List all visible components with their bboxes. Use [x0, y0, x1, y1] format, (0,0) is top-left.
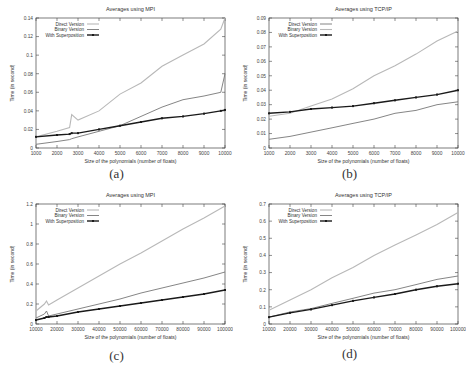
y-tick-label: 0.2	[26, 302, 33, 307]
series-point	[140, 302, 142, 304]
x-tick-label: 90000	[197, 327, 211, 332]
y-tick-label: 1	[30, 222, 33, 227]
series-point	[436, 285, 438, 287]
x-tick-label: 20000	[50, 327, 64, 332]
chart-caption-c: (c)	[0, 348, 233, 364]
x-tick-label: 80000	[176, 327, 190, 332]
x-tick-label: 30000	[71, 327, 85, 332]
series-point	[352, 300, 354, 302]
y-tick-label: 0.2	[259, 288, 266, 293]
x-tick-label: 30000	[304, 327, 318, 332]
y-tick-label: 0.6	[259, 219, 266, 224]
x-tick-label: 100000	[217, 327, 233, 332]
series-point	[268, 112, 270, 114]
y-tick-label: 0.07	[257, 45, 267, 50]
x-tick-label: 3000	[73, 151, 84, 156]
series-point	[457, 283, 459, 285]
series-point	[161, 117, 163, 119]
x-tick-label: 100000	[450, 327, 466, 332]
series-point	[69, 133, 71, 135]
x-tick-label: 10000	[218, 151, 232, 156]
chart-caption-a: (a)	[0, 166, 233, 182]
x-tick-label: 7000	[157, 151, 168, 156]
series-point	[289, 312, 291, 314]
series-point	[436, 94, 438, 96]
x-tick-label: 9000	[199, 151, 210, 156]
chart-caption-b: (b)	[233, 166, 466, 182]
y-axis-label: Time (in second)	[9, 245, 15, 282]
series-point	[373, 296, 375, 298]
legend-label: Direct Version	[288, 22, 317, 27]
y-tick-label: 0.12	[24, 34, 34, 39]
series-point	[161, 299, 163, 301]
x-tick-label: 60000	[367, 327, 381, 332]
series-point	[71, 132, 73, 134]
legend-label: Binary Version	[54, 27, 84, 32]
x-tick-label: 10000	[451, 151, 465, 156]
y-axis-label: Time (in second)	[242, 64, 248, 101]
series-point	[56, 315, 58, 317]
series-point	[48, 316, 50, 318]
series-line	[36, 74, 225, 145]
x-tick-label: 2000	[52, 151, 63, 156]
series-point	[77, 132, 79, 134]
y-tick-label: 0.1	[26, 53, 33, 58]
series-point	[352, 105, 354, 107]
chart-panel-a: Averages using MPI00.020.040.060.080.10.…	[0, 0, 233, 186]
x-tick-label: 8000	[178, 151, 189, 156]
y-tick-label: 0.7	[259, 202, 266, 207]
chart-panel-c: Averages using MPI00.20.40.60.811.210000…	[0, 186, 233, 372]
series-point	[203, 113, 205, 115]
series-point	[268, 316, 270, 318]
x-tick-label: 9000	[432, 151, 443, 156]
chart-title: Averages using TCP/IP	[335, 192, 392, 198]
x-tick-label: 1000	[31, 151, 42, 156]
y-tick-label: 0.04	[24, 109, 34, 114]
series-point	[119, 305, 121, 307]
y-axis-label: Time (in second)	[9, 64, 15, 101]
series-point	[119, 125, 121, 127]
chart-title: Averages using MPI	[106, 192, 156, 198]
y-tick-label: 0.06	[257, 59, 267, 64]
series-point	[457, 89, 459, 91]
series-line	[269, 31, 458, 116]
x-tick-label: 20000	[283, 327, 297, 332]
series-line	[36, 110, 225, 137]
x-tick-label: 70000	[155, 327, 169, 332]
y-tick-label: 0.08	[257, 30, 267, 35]
legend-label: With Superposition	[278, 33, 317, 38]
chart-title: Averages using TCP/IP	[335, 6, 392, 12]
x-tick-label: 5000	[115, 151, 126, 156]
series-point	[46, 316, 48, 318]
series-point	[43, 317, 45, 319]
x-tick-label: 6000	[369, 151, 380, 156]
y-tick-label: 0.4	[259, 253, 266, 258]
y-tick-label: 0.06	[24, 90, 34, 95]
line-chart-a: Averages using MPI00.020.040.060.080.10.…	[0, 0, 233, 170]
series-point	[331, 304, 333, 306]
y-tick-label: 0.3	[259, 270, 266, 275]
x-tick-label: 50000	[113, 327, 127, 332]
y-tick-label: 0.02	[24, 127, 34, 132]
x-tick-label: 60000	[134, 327, 148, 332]
y-axis-label: Time (in second)	[242, 245, 248, 282]
series-point	[182, 296, 184, 298]
series-point	[224, 289, 226, 291]
series-point	[77, 311, 79, 313]
y-tick-label: 0.05	[257, 74, 267, 79]
y-tick-label: 0.1	[259, 305, 266, 310]
y-tick-label: 0.08	[24, 72, 34, 77]
y-tick-label: 1.2	[26, 202, 33, 207]
x-tick-label: 1000	[264, 151, 275, 156]
line-chart-b: Averages using TCP/IP00.010.020.030.040.…	[233, 0, 466, 170]
series-point	[415, 289, 417, 291]
series-point	[224, 109, 226, 111]
legend-label: With Superposition	[45, 219, 84, 224]
x-tick-label: 90000	[430, 327, 444, 332]
series-point	[35, 136, 37, 138]
legend-label: Binary Version	[287, 213, 317, 218]
y-tick-label: 0.04	[257, 88, 267, 93]
x-tick-label: 10000	[29, 327, 43, 332]
x-tick-label: 10000	[262, 327, 276, 332]
legend-label: Direct Version	[288, 208, 317, 213]
